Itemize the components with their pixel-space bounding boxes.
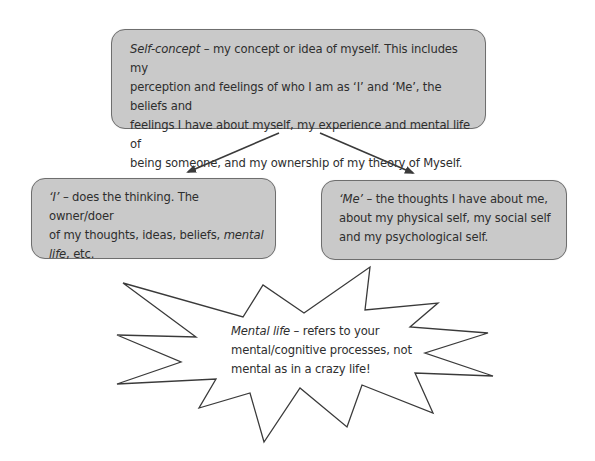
me-term: ‘Me’ bbox=[339, 192, 363, 206]
callout-line-3: mental as in a crazy life! bbox=[231, 360, 421, 379]
i-text-2: of my thoughts, ideas, beliefs, bbox=[49, 228, 224, 242]
self-concept-box: Self-concept – my concept or idea of mys… bbox=[111, 29, 486, 129]
i-box: ‘I’ – does the thinking. The owner/doer … bbox=[31, 178, 276, 259]
self-concept-line-2: perception and feelings of who I am as ‘… bbox=[130, 78, 473, 116]
i-text-1: – does the thinking. The owner/doer bbox=[49, 190, 199, 223]
callout-line-1: Mental life – refers to your bbox=[231, 322, 421, 341]
i-text-3-em: life bbox=[49, 247, 66, 261]
callout-text-1: – refers to your bbox=[290, 324, 379, 338]
mental-life-callout: Mental life – refers to your mental/cogn… bbox=[231, 322, 421, 379]
me-line-2: about my physical self, my social self bbox=[339, 209, 556, 228]
callout-term: Mental life bbox=[231, 324, 290, 338]
i-line-2: of my thoughts, ideas, beliefs, mental bbox=[49, 226, 265, 245]
self-concept-line-4: being someone, and my ownership of my th… bbox=[130, 154, 473, 173]
self-concept-line-1: Self-concept – my concept or idea of mys… bbox=[130, 40, 473, 78]
callout-line-2: mental/cognitive processes, not bbox=[231, 341, 421, 360]
me-text-1: – the thoughts I have about me, bbox=[363, 192, 548, 206]
i-term: ‘I’ bbox=[49, 190, 59, 204]
i-text-3: , etc. bbox=[66, 247, 94, 261]
i-line-1: ‘I’ – does the thinking. The owner/doer bbox=[49, 188, 265, 226]
i-text-2-em: mental bbox=[224, 228, 264, 242]
self-concept-line-3: feelings I have about myself, my experie… bbox=[130, 116, 473, 154]
me-line-1: ‘Me’ – the thoughts I have about me, bbox=[339, 190, 556, 209]
me-box: ‘Me’ – the thoughts I have about me, abo… bbox=[321, 180, 567, 260]
self-concept-term: Self-concept bbox=[130, 42, 200, 56]
me-line-3: and my psychological self. bbox=[339, 228, 556, 247]
i-line-3: life, etc. bbox=[49, 245, 265, 264]
